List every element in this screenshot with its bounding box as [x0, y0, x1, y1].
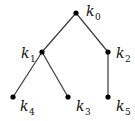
node-k5	[105, 94, 110, 99]
edge-k1-k3	[42, 52, 68, 97]
edge-k0-k1	[42, 13, 76, 52]
node-label-k1: k1	[21, 45, 36, 64]
node-k3	[65, 94, 70, 99]
node-label-k2: k2	[116, 45, 131, 64]
node-k4	[10, 94, 15, 99]
node-k0	[73, 10, 78, 15]
node-label-k3: k3	[76, 98, 91, 117]
tree-diagram: k0k1k2k4k3k5	[0, 0, 135, 121]
node-k1	[39, 49, 44, 54]
node-label-k5: k5	[116, 98, 131, 117]
node-k2	[105, 49, 110, 54]
node-label-k0: k0	[86, 3, 101, 22]
node-label-k4: k4	[20, 98, 35, 117]
